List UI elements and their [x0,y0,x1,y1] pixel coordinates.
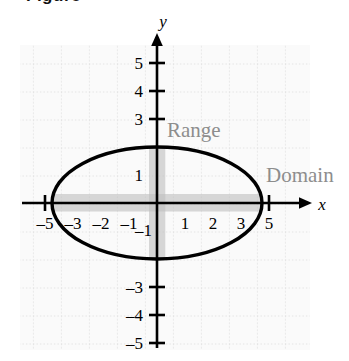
x-tick-label--2: –2 [92,214,110,233]
figure-root: Figure [0,0,349,361]
domain-annotation-label: Domain [266,163,334,187]
range-annotation-label: Range [167,118,221,142]
plot-svg: –5 –3 –2 –1 1 2 3 5 5 4 3 1 –1 –3 –4 –5 … [0,0,349,361]
x-tick-label--3: –3 [64,214,82,233]
y-tick-label--5: –5 [125,334,143,353]
axes-group [22,33,312,348]
y-tick-label-5: 5 [135,54,144,73]
x-tick-label--5: –5 [36,214,54,233]
y-tick-label-3: 3 [135,110,144,129]
x-tick-label-1: 1 [181,214,190,233]
x-tick-label-2: 2 [209,214,218,233]
y-tick-label-4: 4 [135,82,144,101]
x-tick-label-3: 3 [237,214,246,233]
y-tick-label-1: 1 [135,166,144,185]
y-axis-name: y [157,12,167,31]
x-axis-name: x [317,195,326,214]
x-tick-label-5: 5 [265,214,274,233]
y-tick-label--4: –4 [125,306,144,325]
y-tick-label--1: –1 [134,221,152,240]
y-tick-label--3: –3 [125,278,143,297]
y-axis-arrowhead [151,33,163,46]
x-axis-arrowhead [299,197,312,209]
